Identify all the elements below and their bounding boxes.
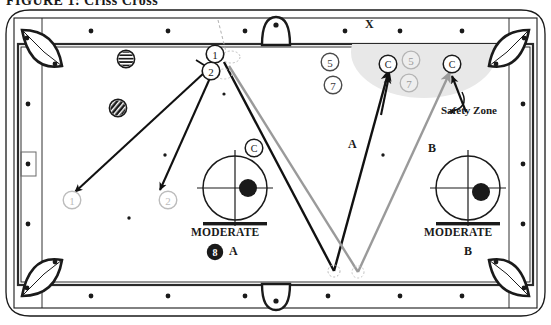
cue-ball-start-2: 2 — [202, 62, 220, 80]
compass-left-shot: A — [229, 244, 238, 259]
rail-diamond — [521, 102, 526, 107]
svg-text:C: C — [251, 143, 258, 154]
target-ball-2: 2 — [159, 191, 177, 209]
svg-text:2: 2 — [165, 195, 171, 207]
cue-ball-start-1: 1 — [206, 45, 224, 63]
solid-ball — [109, 99, 127, 117]
object-ball-5-zone: 5 — [402, 51, 420, 69]
svg-text:C: C — [385, 59, 392, 70]
svg-text:5: 5 — [327, 57, 333, 69]
rail-diamond — [398, 29, 403, 34]
rail-diamond — [89, 294, 94, 299]
compass-right-power: MODERATE — [424, 226, 492, 238]
rail-diamond — [243, 294, 248, 299]
cue-ball-mid: C — [245, 139, 263, 157]
rail-diamond — [326, 294, 331, 299]
top-rail-marker-x: X — [365, 17, 374, 32]
cue-ball-zone-b: C — [443, 55, 461, 73]
svg-text:8: 8 — [213, 247, 218, 258]
svg-text:7: 7 — [406, 78, 412, 90]
svg-text:7: 7 — [330, 80, 336, 92]
shot-label-b: B — [428, 141, 436, 156]
svg-text:2: 2 — [208, 66, 214, 78]
compass-right-shot: B — [464, 244, 472, 259]
rail-diamond — [89, 29, 94, 34]
eight-ball-badge: 8 — [207, 244, 223, 260]
target-ball-1: 1 — [63, 191, 81, 209]
rail-diamond — [398, 294, 403, 299]
striped-ball — [117, 50, 135, 68]
rail-diamond — [343, 29, 348, 34]
rail-diamond — [521, 222, 526, 227]
rail-diamond — [521, 162, 526, 167]
spin-dot-left — [239, 179, 257, 197]
rail-diamond — [26, 222, 31, 227]
rail-diamond — [243, 29, 248, 34]
object-ball-7-zone: 7 — [400, 74, 418, 92]
compass-left-power: MODERATE — [191, 226, 259, 238]
figure-container: FIGURE 1: Criss Cross — [0, 0, 551, 325]
safety-zone-label: Safety Zone — [441, 104, 497, 116]
rail-diamond — [460, 294, 465, 299]
spin-dot-right — [472, 183, 490, 201]
svg-text:1: 1 — [212, 49, 218, 61]
rail-diamond — [166, 29, 171, 34]
rail-diamond — [166, 294, 171, 299]
pocket-side-top — [262, 17, 290, 45]
object-ball-7-left: 7 — [324, 76, 342, 94]
svg-text:5: 5 — [408, 55, 414, 67]
billiards-diagram: 1 2 1 2 5 7 — [0, 0, 551, 325]
pocket-side-bottom — [262, 284, 290, 310]
rail-diamond — [460, 29, 465, 34]
shot-label-a: A — [348, 137, 357, 152]
svg-text:1: 1 — [69, 195, 75, 207]
svg-text:C: C — [449, 59, 456, 70]
cue-ball-zone-a: C — [379, 55, 397, 73]
rail-diamond — [26, 162, 31, 167]
object-ball-5-left: 5 — [321, 53, 339, 71]
rail-diamond — [26, 102, 31, 107]
